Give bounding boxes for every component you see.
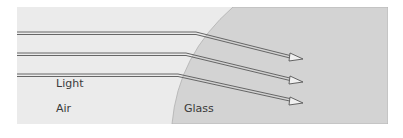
light-label: Light <box>56 77 83 90</box>
glass-label: Glass <box>184 102 214 115</box>
air-label: Air <box>56 102 71 115</box>
refraction-diagram <box>0 0 403 138</box>
